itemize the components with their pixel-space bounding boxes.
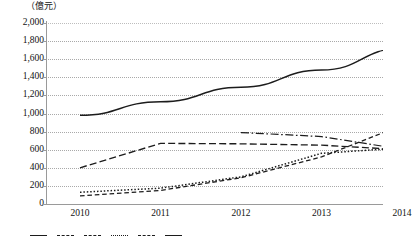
- legend-swatch-icon: [111, 228, 128, 236]
- y-axis-tick-label: 200: [2, 181, 44, 191]
- y-axis-tick-label: 1,000: [2, 109, 44, 119]
- legend-swatch-icon: [57, 228, 74, 236]
- series-lines: [46, 23, 383, 204]
- legend-item[interactable]: [138, 228, 158, 236]
- y-axis-tick-label: 400: [2, 163, 44, 173]
- legend-item[interactable]: [84, 228, 104, 236]
- x-axis-tick-label: 2010: [50, 208, 110, 218]
- x-axis-tick-label: 2011: [131, 208, 191, 218]
- y-axis-tick-label: 0: [2, 199, 44, 209]
- legend-item[interactable]: [111, 228, 131, 236]
- y-axis-tick-label: 2,000: [2, 18, 44, 28]
- y-axis-tick-column: 2,0001,8001,6001,4001,2001,0008006004002…: [0, 0, 44, 237]
- series-line-series-5: [80, 125, 383, 196]
- y-axis-tick-label: 1,800: [2, 36, 44, 46]
- x-axis-tick-label: 2014: [372, 208, 416, 218]
- chart-legend: [0, 228, 386, 237]
- y-axis-tick-label: 1,200: [2, 90, 44, 100]
- legend-item[interactable]: [57, 228, 77, 236]
- legend-swatch-icon: [84, 228, 101, 236]
- y-axis-tick-label: 1,600: [2, 54, 44, 64]
- legend-item[interactable]: [165, 228, 185, 236]
- series-line-series-1: [80, 48, 383, 115]
- series-line-series-2: [80, 143, 383, 167]
- legend-swatch-icon: [138, 228, 155, 236]
- x-axis-tick-label: 2012: [211, 208, 271, 218]
- y-axis-tick-label: 1,400: [2, 72, 44, 82]
- y-axis-tick-label: 800: [2, 127, 44, 137]
- x-axis-line: [46, 204, 383, 205]
- legend-swatch-icon: [30, 228, 47, 236]
- x-axis-tick-label: 2013: [292, 208, 352, 218]
- legend-swatch-icon: [165, 228, 182, 236]
- legend-item[interactable]: [30, 228, 50, 236]
- y-axis-tick-label: 600: [2, 145, 44, 155]
